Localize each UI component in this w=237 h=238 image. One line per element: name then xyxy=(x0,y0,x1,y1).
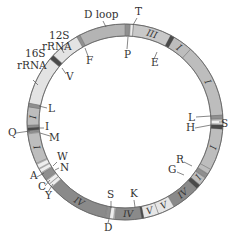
gene-label: S xyxy=(221,117,228,129)
gene-label: R xyxy=(176,153,185,165)
leader-line xyxy=(55,168,59,170)
trna-band xyxy=(125,24,129,36)
gene-label: A xyxy=(29,169,38,181)
gene-label: S xyxy=(107,188,114,200)
gene-label: E xyxy=(151,56,159,68)
mitochondrial-genome-diagram: IIIIIIIIVVVIVIVII D loop12SrRNA16SrRNATP… xyxy=(0,0,237,238)
genome-ring-canvas: IIIIIIIIVVVIVIVII D loop12SrRNA16SrRNATP… xyxy=(0,0,237,238)
gene-labels: D loop12SrRNA16SrRNATPEFVLIQMWNACYSDKGRL… xyxy=(8,5,228,233)
leader-line xyxy=(134,200,135,207)
gene-label: Q xyxy=(8,126,17,138)
gene-label: M xyxy=(49,131,60,143)
gene-label: L xyxy=(48,102,55,114)
gene-label: H xyxy=(186,121,195,133)
gene-label: V xyxy=(65,70,74,82)
gene-label: rRNA xyxy=(17,59,47,71)
leader-line xyxy=(195,125,211,128)
leader-line xyxy=(196,116,211,117)
leader-line xyxy=(184,162,192,166)
leader-line xyxy=(53,162,57,166)
gene-label: T xyxy=(135,5,142,17)
gene-label: F xyxy=(86,54,93,66)
gene-segment xyxy=(79,24,125,46)
complex-label: IV xyxy=(122,209,135,219)
gene-label: N xyxy=(60,161,69,173)
leader-line xyxy=(177,172,184,175)
gene-label: D loop xyxy=(84,8,119,20)
gene-label: D xyxy=(104,221,112,233)
gene-label: Y xyxy=(44,189,53,201)
gene-label: rRNA xyxy=(42,40,72,52)
gene-label: 16S xyxy=(25,47,46,59)
gene-label: K xyxy=(130,187,138,199)
gene-label: P xyxy=(124,48,131,60)
leader-line xyxy=(133,18,137,25)
